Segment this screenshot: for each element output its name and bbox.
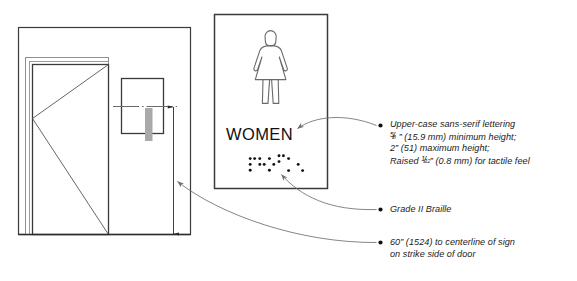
annotation-mounting-height: 60” (1524) to centerline of sign on stri… bbox=[390, 237, 515, 260]
restroom-sign bbox=[215, 15, 328, 189]
annotation-lettering-line-2: 5/8” (15.9 mm) minimum height; bbox=[390, 131, 530, 144]
annotation-mounting-height-line-1: 60” (1524) to centerline of sign bbox=[390, 237, 515, 249]
braille-strip bbox=[145, 108, 153, 141]
diagram-page: WOMEN Upper-case sans-serif lettering 5/… bbox=[0, 0, 577, 281]
annotation-lettering-line-3: 2” (51) maximum height; bbox=[390, 143, 530, 155]
sign-panel-outline bbox=[215, 15, 328, 189]
annotation-braille: Grade II Braille bbox=[390, 204, 451, 216]
annotation-bullets bbox=[378, 123, 382, 244]
fraction-one-thirtysecond: 1/32 bbox=[421, 155, 430, 164]
bullet-dimension bbox=[378, 240, 382, 244]
annotation-lettering-line-4-pre: Raised bbox=[390, 156, 421, 166]
bullet-lettering bbox=[378, 123, 382, 127]
annotation-braille-line-1: Grade II Braille bbox=[390, 204, 451, 216]
bullet-braille bbox=[378, 207, 382, 211]
annotation-lettering-line-1: Upper-case sans-serif lettering bbox=[390, 119, 530, 131]
door-elevation-panel bbox=[19, 28, 191, 235]
fraction-five-eighths: 5/8 bbox=[390, 131, 399, 140]
annotation-mounting-height-line-2: on strike side of door bbox=[390, 249, 515, 261]
door-leaf bbox=[33, 65, 109, 235]
annotation-lettering-line-2-text: ” (15.9 mm) minimum height; bbox=[399, 132, 517, 142]
annotation-lettering: Upper-case sans-serif lettering 5/8” (15… bbox=[390, 119, 530, 168]
sign-word: WOMEN bbox=[226, 125, 293, 144]
leader-to-dimension bbox=[178, 182, 377, 243]
annotation-lettering-line-4: Raised 1/32” (0.8 mm) for tactile feel bbox=[390, 155, 530, 168]
annotation-lettering-line-4-text: ” (0.8 mm) for tactile feel bbox=[430, 156, 530, 166]
